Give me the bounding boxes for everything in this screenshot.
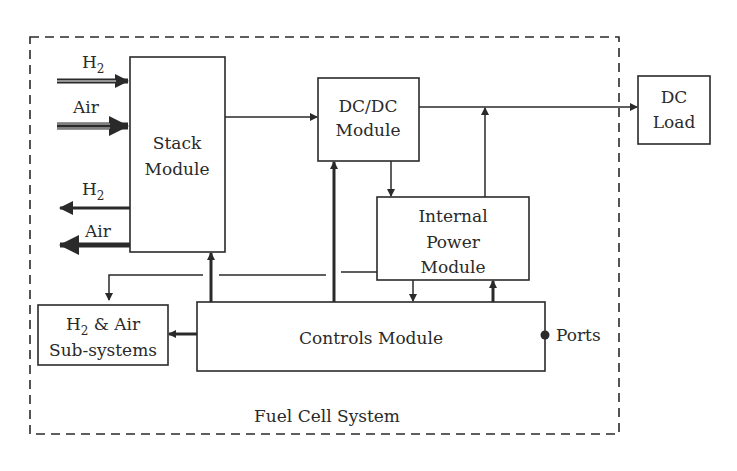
controls-module-label: Controls Module: [299, 328, 443, 348]
fuel-cell-block-diagram: Fuel Cell System Stack Module H2 Air H2 …: [0, 0, 737, 471]
ports-connector-dot: [541, 331, 550, 340]
dcdc-module-block: DC/DC Module: [318, 78, 419, 161]
h2-input-label: H2: [82, 52, 104, 76]
internal-power-label-line3: Module: [421, 257, 486, 277]
dcdc-module-label-line1: DC/DC: [338, 96, 397, 116]
dcdc-module-label-line2: Module: [336, 120, 401, 140]
h2-output-label: H2: [82, 179, 104, 203]
controls-module-block: Controls Module: [197, 302, 545, 371]
internal-power-module-block: Internal Power Module: [377, 197, 529, 280]
ports-label: Ports: [556, 325, 601, 345]
dc-load-label-line1: DC: [661, 87, 688, 107]
stack-module-block: Stack Module: [130, 57, 225, 252]
fuel-cell-system-label: Fuel Cell System: [254, 406, 400, 426]
internal-power-label-line1: Internal: [418, 206, 487, 226]
subsystems-label-line2: Sub-systems: [49, 340, 157, 360]
air-input-arrow: [57, 124, 128, 128]
stack-module-label-line2: Module: [145, 159, 210, 179]
internal-power-to-subsystems-line: [109, 272, 377, 300]
air-output-label: Air: [84, 221, 112, 241]
dc-load-label-line2: Load: [653, 112, 696, 132]
h2-air-subsystems-block: H2 & Air Sub-systems: [38, 305, 168, 365]
dc-load-block: DC Load: [638, 76, 710, 144]
internal-power-label-line2: Power: [426, 232, 481, 252]
air-input-label: Air: [72, 97, 100, 117]
stack-module-label-line1: Stack: [153, 133, 202, 153]
